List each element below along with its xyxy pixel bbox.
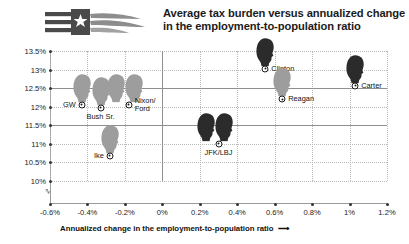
data-point-marker[interactable] xyxy=(97,104,104,111)
gridline-vertical xyxy=(312,51,313,181)
x-axis-tick-label: -0.4% xyxy=(78,208,98,217)
x-axis-tick-label: -0.2% xyxy=(115,208,135,217)
x-axis-tick xyxy=(386,203,389,206)
gridline-vertical xyxy=(237,51,238,181)
x-axis-tick-label: -0.6% xyxy=(40,208,60,217)
chart-header: Average tax burden versus annualized cha… xyxy=(0,0,409,48)
y-axis-tick-label: 12% xyxy=(31,103,46,112)
x-axis-tick-label: 1.2% xyxy=(378,208,395,217)
y-axis-tick xyxy=(49,180,52,183)
y-axis-tick xyxy=(49,124,52,127)
y-axis-tick-label: 11.5% xyxy=(25,121,46,130)
y-axis-tick-label: 13% xyxy=(31,66,46,75)
x-axis-tick-label: 0.6% xyxy=(266,208,283,217)
y-axis-tick xyxy=(49,69,52,72)
gridline-horizontal xyxy=(50,70,387,71)
x-axis-line xyxy=(50,203,387,204)
gridline-vertical xyxy=(387,51,388,181)
y-axis-tick xyxy=(49,143,52,146)
data-point-label: Reagan xyxy=(288,95,314,103)
president-head-silhouette xyxy=(99,124,121,153)
chart-title-line2: in the employment-to-population ratio xyxy=(163,20,407,33)
president-head-silhouette xyxy=(271,68,293,97)
data-point-marker[interactable] xyxy=(279,96,286,103)
data-point-marker[interactable] xyxy=(125,101,132,108)
x-axis-tick xyxy=(349,203,352,206)
data-point-marker[interactable] xyxy=(215,140,222,147)
y-axis-tick-label: 12.5% xyxy=(24,84,46,93)
x-axis-tick-label: 1% xyxy=(344,208,355,217)
data-point-label: Ike xyxy=(94,152,104,160)
x-axis-tick-label: 0.8% xyxy=(303,208,320,217)
plot-area: GWBush Sr.Nixon/ FordIkeJFK/LBJClintonRe… xyxy=(50,51,387,181)
x-axis-tick xyxy=(274,203,277,206)
x-axis-tick-label: 0% xyxy=(157,208,168,217)
chart-title: Average tax burden versus annualized cha… xyxy=(163,7,407,33)
gridline-horizontal xyxy=(50,51,387,52)
chart-container: Average tax burden versus annualized cha… xyxy=(0,0,409,244)
chart-title-line1: Average tax burden versus annualized cha… xyxy=(163,7,407,20)
y-axis-tick xyxy=(49,161,52,164)
y-axis-break-icon: ∿ xyxy=(45,186,51,196)
x-axis-tick-label: 0.4% xyxy=(229,208,246,217)
x-axis-tick xyxy=(236,203,239,206)
president-head-silhouette xyxy=(344,54,366,83)
data-point-label: Carter xyxy=(361,81,382,89)
president-head-silhouette xyxy=(254,37,276,66)
data-point-label: Nixon/ Ford xyxy=(135,96,156,113)
gridline-zero xyxy=(162,51,163,181)
x-axis-tick xyxy=(161,203,164,206)
x-axis-tick-label: 0.2% xyxy=(191,208,208,217)
y-axis-tick-label: 11% xyxy=(31,140,46,149)
y-axis-tick xyxy=(49,87,52,90)
flag-swoosh-logo-icon xyxy=(45,8,160,40)
president-head-silhouette xyxy=(213,112,235,141)
data-point-marker[interactable] xyxy=(262,65,269,72)
x-axis-tick xyxy=(199,203,202,206)
gridline-vertical xyxy=(125,51,126,181)
data-point-marker[interactable] xyxy=(106,152,113,159)
gridline-horizontal xyxy=(50,181,387,182)
gridline-horizontal xyxy=(50,162,387,163)
data-point-marker[interactable] xyxy=(352,82,359,89)
x-axis-tick xyxy=(311,203,314,206)
x-axis-title: Annualized change in the employment-to-p… xyxy=(60,224,289,233)
y-axis-tick-label: 10.5% xyxy=(24,158,46,167)
y-axis-tick-label: 10% xyxy=(31,177,46,186)
y-axis-tick xyxy=(49,106,52,109)
y-axis-tick-label: 13.5% xyxy=(24,47,46,56)
data-point-marker[interactable] xyxy=(78,101,85,108)
y-axis-tick xyxy=(49,50,52,53)
data-point-label: JFK/LBJ xyxy=(205,149,233,157)
data-point-label: GW xyxy=(63,101,76,109)
x-axis-tick xyxy=(49,203,52,206)
x-axis-tick xyxy=(124,203,127,206)
data-point-label: Bush Sr. xyxy=(87,113,115,121)
x-axis-tick xyxy=(86,203,89,206)
